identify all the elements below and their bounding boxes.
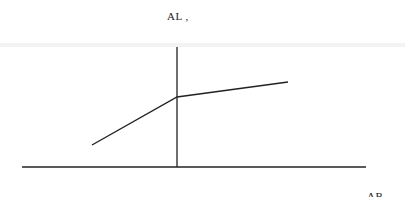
data-line: [92, 82, 288, 145]
chart-plot-area: [0, 0, 405, 197]
